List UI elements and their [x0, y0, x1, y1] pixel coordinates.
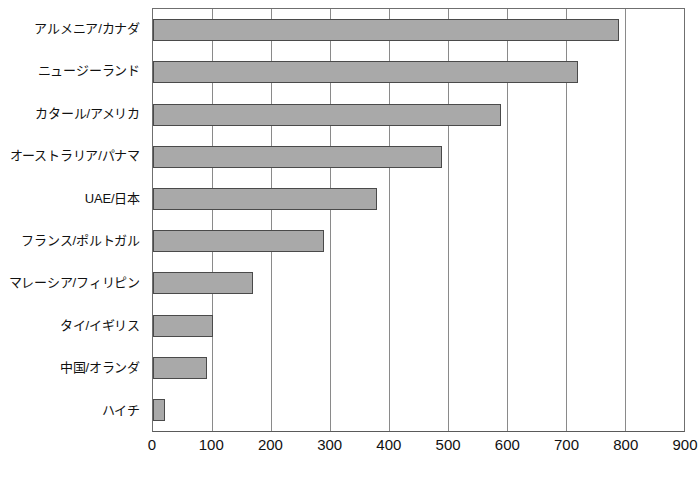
category-label: カタール/アメリカ	[35, 107, 140, 121]
category-label: アルメニア/カナダ	[34, 22, 140, 36]
bar[interactable]	[153, 61, 578, 83]
category-label: ハイチ	[102, 404, 140, 418]
bar[interactable]	[153, 399, 165, 421]
category-axis: アルメニア/カナダ ニュージーランド カタール/アメリカ オーストラリア/パナマ…	[0, 8, 146, 432]
category-label: 中国/オランダ	[60, 361, 140, 375]
bar[interactable]	[153, 19, 619, 41]
bar-row	[153, 136, 684, 178]
bar[interactable]	[153, 315, 213, 337]
x-tick-label: 900	[672, 436, 697, 453]
category-label: ニュージーランド	[38, 64, 140, 78]
x-tick-label: 0	[148, 436, 156, 453]
category-row: 中国/オランダ	[0, 347, 146, 389]
bar-row	[153, 389, 684, 431]
category-row: ニュージーランド	[0, 50, 146, 92]
bar[interactable]	[153, 357, 207, 379]
x-tick-label: 700	[554, 436, 579, 453]
bar-row	[153, 93, 684, 135]
x-tick-label: 200	[258, 436, 283, 453]
bar-row	[153, 220, 684, 262]
bar[interactable]	[153, 146, 442, 168]
x-tick-label: 800	[613, 436, 638, 453]
category-label: フランス/ポルトガル	[21, 234, 140, 248]
bar-chart: アルメニア/カナダ ニュージーランド カタール/アメリカ オーストラリア/パナマ…	[0, 0, 699, 483]
x-tick-label: 400	[376, 436, 401, 453]
bar-row	[153, 262, 684, 304]
category-row: UAE/日本	[0, 178, 146, 220]
x-tick-label: 600	[495, 436, 520, 453]
x-tick-label: 300	[317, 436, 342, 453]
category-row: フランス/ポルトガル	[0, 220, 146, 262]
bar[interactable]	[153, 104, 501, 126]
category-label: オーストラリア/パナマ	[10, 149, 140, 163]
bar[interactable]	[153, 188, 377, 210]
category-label: マレーシア/フィリピン	[9, 276, 140, 290]
bar-row	[153, 178, 684, 220]
category-row: マレーシア/フィリピン	[0, 262, 146, 304]
bars-layer	[153, 9, 684, 431]
bar[interactable]	[153, 230, 324, 252]
x-tick-label: 500	[436, 436, 461, 453]
category-row: カタール/アメリカ	[0, 93, 146, 135]
bar-row	[153, 347, 684, 389]
bar[interactable]	[153, 272, 253, 294]
category-label: UAE/日本	[85, 192, 140, 206]
bar-row	[153, 304, 684, 346]
category-label: タイ/イギリス	[60, 319, 140, 333]
bar-row	[153, 51, 684, 93]
value-axis: 0100200300400500600700800900	[152, 436, 685, 466]
category-row: タイ/イギリス	[0, 305, 146, 347]
category-row: オーストラリア/パナマ	[0, 135, 146, 177]
category-row: ハイチ	[0, 390, 146, 432]
bar-row	[153, 9, 684, 51]
x-tick-label: 100	[199, 436, 224, 453]
category-row: アルメニア/カナダ	[0, 8, 146, 50]
plot-area	[152, 8, 685, 432]
